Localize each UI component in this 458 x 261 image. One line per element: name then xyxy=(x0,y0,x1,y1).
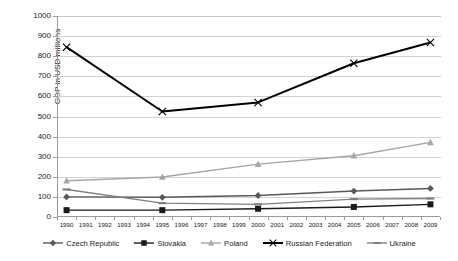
chart-legend: Czech RepublicSlovakiaPolandRussian Fede… xyxy=(0,236,458,250)
series-line xyxy=(67,43,431,112)
data-point-marker xyxy=(426,197,434,199)
data-point-marker xyxy=(63,188,71,190)
legend-marker-dash-icon xyxy=(366,238,388,248)
series-poland xyxy=(63,139,434,184)
legend-marker-triangle-icon xyxy=(200,238,222,248)
data-point-marker xyxy=(427,201,433,207)
data-point-marker xyxy=(255,206,261,212)
data-point-marker xyxy=(254,203,262,205)
data-point-marker xyxy=(350,188,357,195)
legend-marker-diamond-icon xyxy=(42,238,64,248)
legend-item-czech-republic[interactable]: Czech Republic xyxy=(42,238,119,248)
legend-item-slovakia[interactable]: Slovakia xyxy=(133,238,186,248)
series-line xyxy=(67,189,431,204)
legend-label: Slovakia xyxy=(157,239,186,248)
legend-label: Ukraine xyxy=(390,239,416,248)
series-layer xyxy=(0,0,458,261)
series-line xyxy=(67,142,431,180)
legend-label: Poland xyxy=(224,239,248,248)
legend-item-poland[interactable]: Poland xyxy=(200,238,248,248)
legend-marker-square-icon xyxy=(133,238,155,248)
legend-label: Czech Republic xyxy=(66,239,119,248)
legend-item-russian-federation[interactable]: Russian Federation xyxy=(262,238,352,248)
series-russian-federation xyxy=(63,39,434,115)
series-line xyxy=(67,204,431,210)
legend-marker-cross-icon xyxy=(262,238,284,248)
line-chart: GDP in USD millions 10009008007006005004… xyxy=(0,0,458,261)
legend-item-ukraine[interactable]: Ukraine xyxy=(366,238,416,248)
legend-label: Russian Federation xyxy=(286,239,352,248)
data-point-marker xyxy=(427,185,434,192)
data-point-marker xyxy=(350,198,358,200)
data-point-marker xyxy=(255,192,262,199)
data-point-marker xyxy=(427,139,434,145)
data-point-marker xyxy=(64,207,70,213)
data-point-marker xyxy=(158,202,166,204)
data-point-marker xyxy=(351,204,357,210)
series-line xyxy=(67,188,431,197)
series-slovakia xyxy=(64,201,434,213)
data-point-marker xyxy=(159,194,166,201)
data-point-marker xyxy=(159,207,165,213)
data-point-marker xyxy=(63,194,70,201)
